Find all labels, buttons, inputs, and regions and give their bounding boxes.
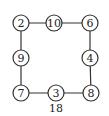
number-square-diagram: 210694738 18 bbox=[0, 0, 109, 116]
node-label: 8 bbox=[88, 87, 95, 100]
node-top-left: 2 bbox=[13, 15, 29, 31]
node-top-right: 6 bbox=[82, 15, 98, 31]
nodes-group: 210694738 bbox=[13, 15, 99, 101]
edges-group bbox=[21, 23, 91, 93]
node-label: 9 bbox=[18, 52, 25, 65]
node-label: 3 bbox=[53, 87, 60, 100]
node-bottom-left: 7 bbox=[13, 85, 29, 101]
node-label: 7 bbox=[18, 87, 25, 100]
node-label: 2 bbox=[18, 17, 25, 30]
node-bottom-mid: 3 bbox=[48, 85, 64, 101]
node-label: 4 bbox=[87, 52, 94, 65]
node-label: 6 bbox=[87, 17, 94, 30]
node-bottom-right: 8 bbox=[83, 85, 99, 101]
caption-label: 18 bbox=[49, 102, 63, 115]
node-left-mid: 9 bbox=[13, 50, 29, 66]
node-top-mid: 10 bbox=[46, 15, 62, 31]
node-right-mid: 4 bbox=[82, 50, 98, 66]
node-label: 10 bbox=[47, 17, 61, 30]
